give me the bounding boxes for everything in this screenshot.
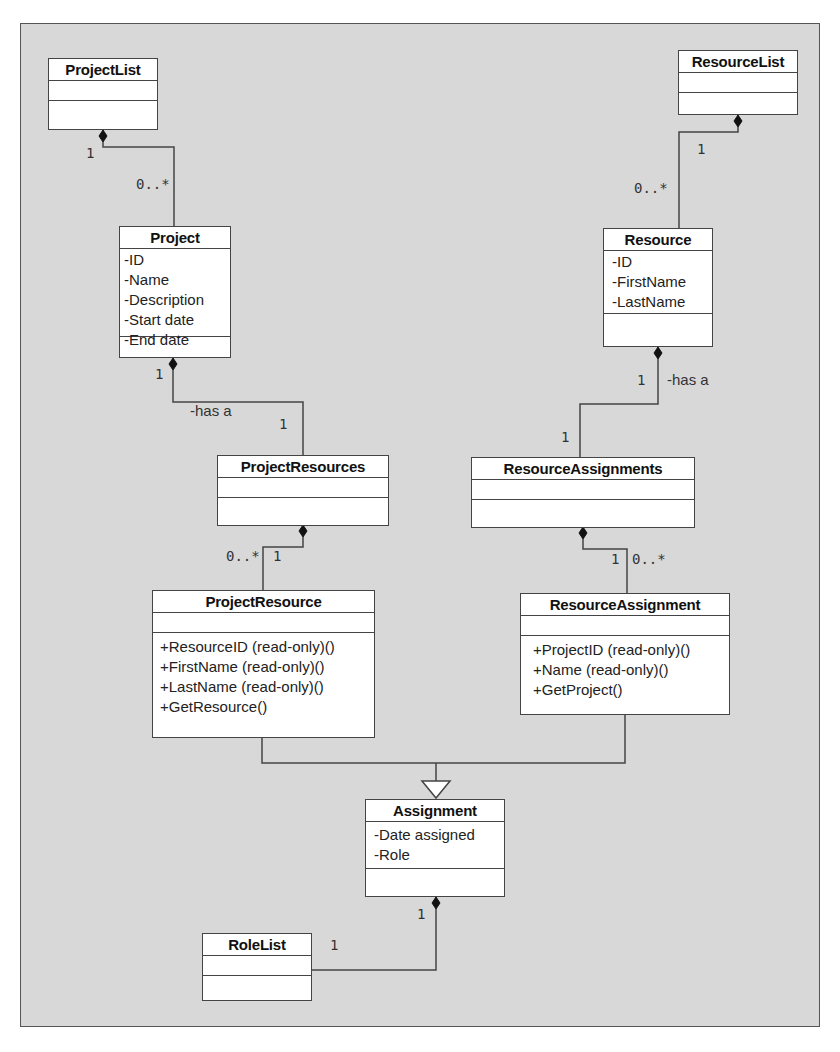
multiplicity-label: 1 <box>697 141 705 157</box>
class-resourceassignment[interactable]: ResourceAssignment +ProjectID (read-only… <box>520 593 730 715</box>
methods-section <box>366 869 504 896</box>
multiplicity-label: 0..* <box>136 176 170 192</box>
attribute: -LastName <box>612 292 704 312</box>
connector-projectresources-projectresource <box>263 537 303 590</box>
multiplicity-label: 1 <box>417 906 425 922</box>
methods-section <box>120 337 230 357</box>
attributes-section <box>49 81 157 101</box>
multiplicity-label: 1 <box>279 416 287 432</box>
class-resource[interactable]: Resource -ID -FirstName -LastName <box>603 228 713 347</box>
class-project[interactable]: Project -ID -Name -Description -Start da… <box>119 226 231 358</box>
class-name: Assignment <box>366 800 504 822</box>
class-name: Resource <box>604 229 712 251</box>
class-name: ResourceAssignment <box>521 594 729 616</box>
attribute: -Date assigned <box>374 825 496 845</box>
attributes-section <box>203 956 311 976</box>
class-name: ResourceAssignments <box>472 458 694 480</box>
composition-diamond-icon <box>654 347 662 359</box>
methods-section <box>604 314 712 346</box>
attribute: -Description <box>124 290 226 310</box>
composition-diamond-icon <box>734 115 742 127</box>
methods-section <box>218 498 388 525</box>
attributes-section <box>521 616 729 636</box>
composition-diamond-icon <box>169 358 177 370</box>
attribute: -Role <box>374 845 496 865</box>
composition-diamond-icon <box>432 897 440 909</box>
class-projectlist[interactable]: ProjectList <box>48 58 158 130</box>
attribute: -ID <box>612 252 704 272</box>
method: +Name (read-only)() <box>533 660 717 680</box>
attribute: -Name <box>124 270 226 290</box>
method: +FirstName (read-only)() <box>160 657 367 677</box>
class-name: ProjectResource <box>153 591 374 613</box>
class-assignment[interactable]: Assignment -Date assigned -Role <box>365 799 505 897</box>
multiplicity-label: 1 <box>155 366 163 382</box>
method: +GetResource() <box>160 697 367 717</box>
role-label: -has a <box>667 371 709 388</box>
methods-section <box>472 500 694 527</box>
class-name: ProjectList <box>49 59 157 81</box>
composition-diamond-icon <box>579 527 587 539</box>
multiplicity-label: 1 <box>611 551 619 567</box>
class-name: Project <box>120 227 230 249</box>
role-label: -has a <box>190 402 232 419</box>
multiplicity-label: 1 <box>273 548 281 564</box>
class-resourceassignments[interactable]: ResourceAssignments <box>471 457 695 528</box>
generalization-arrow-icon <box>422 781 450 798</box>
method: +ResourceID (read-only)() <box>160 637 367 657</box>
attributes-section: -Date assigned -Role <box>366 822 504 869</box>
attributes-section <box>472 480 694 500</box>
attributes-section <box>679 73 797 93</box>
multiplicity-label: 0..* <box>632 551 666 567</box>
method: +GetProject() <box>533 680 717 700</box>
method: +LastName (read-only)() <box>160 677 367 697</box>
class-projectresources[interactable]: ProjectResources <box>217 455 389 526</box>
methods-section <box>203 976 311 1000</box>
attributes-section <box>153 613 374 633</box>
composition-diamond-icon <box>299 525 307 537</box>
multiplicity-label: 0..* <box>634 180 668 196</box>
attributes-section <box>218 478 388 498</box>
attributes-section: -ID -FirstName -LastName <box>604 251 712 314</box>
attribute: -FirstName <box>612 272 704 292</box>
attribute: -ID <box>124 250 226 270</box>
class-name: ProjectResources <box>218 456 388 478</box>
class-name: RoleList <box>203 934 311 956</box>
connector-resourcelist-resource <box>679 127 738 228</box>
connector-resource-resourceassignments <box>580 359 658 457</box>
method: +ProjectID (read-only)() <box>533 640 717 660</box>
connector-resourceassignments-resourceassignment <box>583 539 627 593</box>
class-name: ResourceList <box>679 51 797 73</box>
attributes-section: -ID -Name -Description -Start date -End … <box>120 249 230 337</box>
class-projectresource[interactable]: ProjectResource +ResourceID (read-only)(… <box>152 590 375 738</box>
methods-section <box>49 101 157 129</box>
multiplicity-label: 1 <box>561 429 569 445</box>
methods-section: +ProjectID (read-only)() +Name (read-onl… <box>521 636 729 714</box>
multiplicity-label: 1 <box>86 145 94 161</box>
class-rolelist[interactable]: RoleList <box>202 933 312 1001</box>
composition-diamond-icon <box>99 130 107 142</box>
multiplicity-label: 1 <box>330 937 338 953</box>
multiplicity-label: 0..* <box>226 548 260 564</box>
class-resourcelist[interactable]: ResourceList <box>678 50 798 115</box>
attribute: -Start date <box>124 310 226 330</box>
methods-section: +ResourceID (read-only)() +FirstName (re… <box>153 633 374 737</box>
methods-section <box>679 93 797 114</box>
multiplicity-label: 1 <box>637 372 645 388</box>
